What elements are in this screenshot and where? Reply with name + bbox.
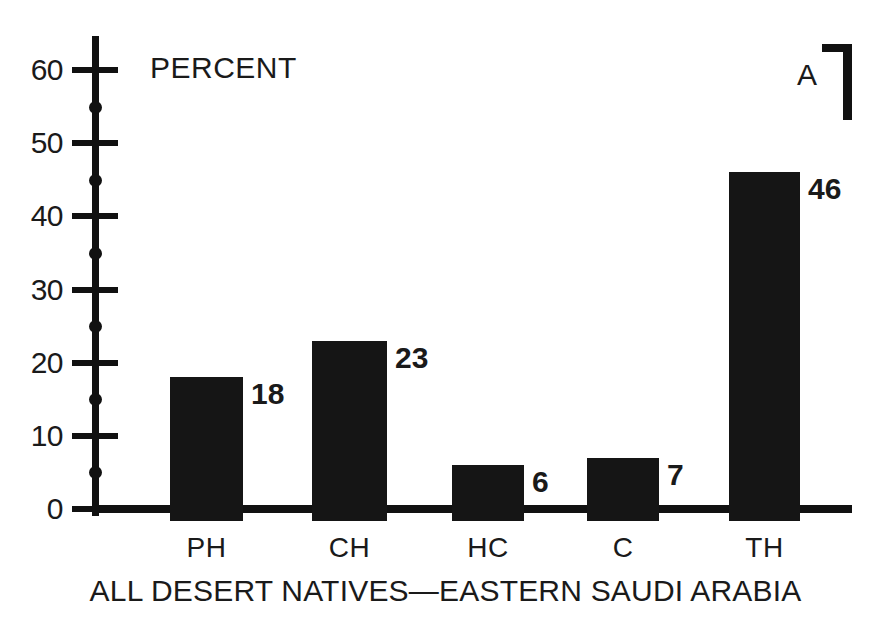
bar-value-label: 23: [395, 343, 428, 373]
bar: [587, 458, 659, 521]
y-tick-label: 30: [0, 275, 63, 305]
y-tick-label: 0: [0, 494, 63, 524]
figure-panel: 0102030405060 PERCENT 18PH23CH6HC7C46TH …: [0, 0, 891, 634]
y-tick-label: 40: [0, 201, 63, 231]
bar: [729, 172, 800, 521]
y-tick-minor: [89, 466, 102, 479]
y-tick-label: 50: [0, 128, 63, 158]
bar-value-label: 7: [667, 460, 684, 490]
panel-bracket-icon: [822, 44, 852, 120]
figure-caption: ALL DESERT NATIVES—EASTERN SAUDI ARABIA: [0, 576, 891, 606]
y-tick-major: [72, 433, 118, 439]
bar: [170, 377, 243, 521]
x-category-label: C: [563, 534, 683, 562]
bar-value-label: 6: [532, 467, 549, 497]
y-axis-title: PERCENT: [150, 53, 297, 83]
y-tick-major: [72, 67, 118, 73]
y-tick-major: [72, 287, 118, 293]
y-tick-minor: [89, 101, 102, 114]
bar-value-label: 46: [808, 174, 841, 204]
y-tick-label: 20: [0, 348, 63, 378]
x-category-label: CH: [290, 534, 410, 562]
bar-chart: 0102030405060 PERCENT 18PH23CH6HC7C46TH …: [0, 0, 891, 634]
y-tick-major: [72, 506, 118, 512]
x-category-label: TH: [705, 534, 825, 562]
y-tick-major: [72, 360, 118, 366]
y-tick-minor: [89, 174, 102, 187]
bar: [312, 341, 387, 521]
y-tick-minor: [89, 320, 102, 333]
y-tick-minor: [89, 247, 102, 260]
y-tick-label: 10: [0, 421, 63, 451]
y-tick-label: 60: [0, 55, 63, 85]
x-category-label: HC: [428, 534, 548, 562]
y-tick-major: [72, 140, 118, 146]
panel-letter: A: [797, 60, 817, 90]
y-tick-minor: [89, 393, 102, 406]
bar-value-label: 18: [251, 379, 284, 409]
x-category-label: PH: [147, 534, 267, 562]
y-tick-major: [72, 213, 118, 219]
bar: [452, 465, 524, 521]
